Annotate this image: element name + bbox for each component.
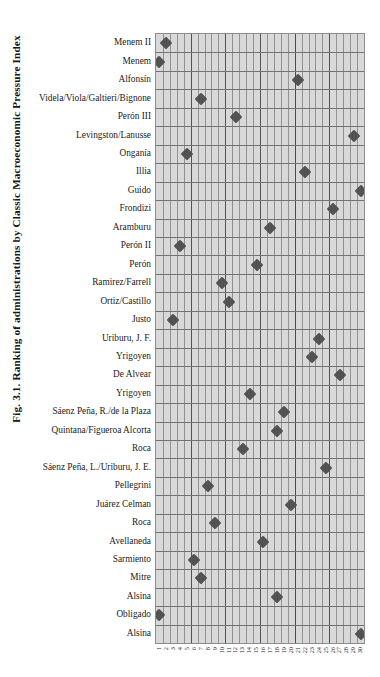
category-label: Onganía <box>18 146 151 160</box>
category-label: Perón II <box>18 238 151 252</box>
axis-tick-label-text: 30 <box>357 647 365 653</box>
category-label: Yrigoyen <box>18 349 151 363</box>
data-point <box>195 92 208 105</box>
data-point <box>174 240 187 253</box>
data-point <box>160 37 173 50</box>
category-label: Roca <box>18 441 151 455</box>
data-point <box>326 203 339 216</box>
data-point <box>167 314 180 327</box>
category-label: Aramburu <box>18 220 151 234</box>
category-label: Sarmiento <box>18 552 151 566</box>
data-point <box>155 55 166 68</box>
data-point <box>257 535 270 548</box>
data-point <box>181 148 194 161</box>
category-label: Illia <box>18 164 151 178</box>
data-point-layer <box>156 34 364 643</box>
data-point <box>319 461 332 474</box>
category-label: Menem <box>18 54 151 68</box>
category-label: Ortiz/Castillo <box>18 294 151 308</box>
category-axis-labels: Menem IIMenemAlfonsínVidela/Viola/Galtie… <box>18 33 151 643</box>
category-label: Justo <box>18 312 151 326</box>
category-label: Obligado <box>18 607 151 621</box>
category-label: Perón <box>18 257 151 271</box>
data-point <box>299 166 312 179</box>
category-label: Videla/Viola/Galtieri/Bignone <box>18 91 151 105</box>
data-point <box>155 609 166 622</box>
category-label: Mitre <box>18 570 151 584</box>
data-point <box>209 517 222 530</box>
data-point <box>195 572 208 585</box>
data-point <box>243 387 256 400</box>
category-label: Alfonsín <box>18 72 151 86</box>
category-label: Uriburu, J. F. <box>18 331 151 345</box>
data-point <box>271 590 284 603</box>
category-label: Ramirez/Farrell <box>18 275 151 289</box>
data-point <box>236 443 249 456</box>
value-axis-tick-labels: 1234567891011121314151617181920212223242… <box>155 646 365 674</box>
data-point <box>188 554 201 567</box>
data-point <box>278 406 291 419</box>
data-point <box>354 184 365 197</box>
data-point <box>354 627 365 640</box>
data-point <box>222 295 235 308</box>
data-point <box>271 424 284 437</box>
category-label: Guido <box>18 183 151 197</box>
data-point <box>333 369 346 382</box>
category-label: Juárez Celman <box>18 497 151 511</box>
category-label: De Alvear <box>18 367 151 381</box>
data-point <box>306 351 319 364</box>
category-label: Levingston/Lanusse <box>18 128 151 142</box>
category-label: Alsina <box>18 626 151 640</box>
category-label: Roca <box>18 515 151 529</box>
category-label: Menem II <box>18 35 151 49</box>
data-point <box>202 480 215 493</box>
data-point <box>215 277 228 290</box>
chart-plot-area <box>155 33 365 644</box>
category-label: Avellaneda <box>18 534 151 548</box>
category-label: Yrigoyen <box>18 386 151 400</box>
data-point <box>250 258 263 271</box>
category-label: Alsina <box>18 589 151 603</box>
category-label: Pellegrini <box>18 478 151 492</box>
category-label: Perón III <box>18 109 151 123</box>
data-point <box>313 332 326 345</box>
data-point <box>264 221 277 234</box>
category-label: Sáenz Peña, R./de la Plaza <box>18 404 151 418</box>
data-point <box>347 129 360 142</box>
category-label: Sáenz Peña, L./Uriburu, J. E. <box>18 460 151 474</box>
data-point <box>229 111 242 124</box>
category-label: Quintana/Figueroa Alcorta <box>18 423 151 437</box>
category-label: Frondizi <box>18 201 151 215</box>
data-point <box>292 74 305 87</box>
data-point <box>285 498 298 511</box>
